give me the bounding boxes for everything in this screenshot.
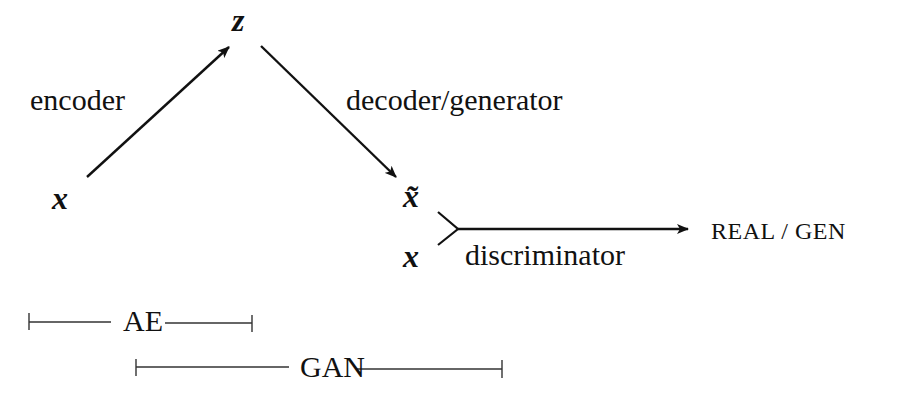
latent-z-label: z [232,4,244,36]
real-x-label: x [403,240,419,272]
decoder-generator-label: decoder/generator [346,85,563,115]
input-x-label: x [52,182,68,214]
output-real-gen-label: REAL / GEN [711,219,846,243]
discriminator-label: discriminator [465,240,625,270]
gan-span-label: GAN [300,352,365,382]
reconstruction-x-tilde-label: x̃ [403,180,419,212]
merge-bracket [438,212,458,245]
diagram-canvas [0,0,914,414]
ae-span-label: AE [123,306,163,336]
encoder-label: encoder [30,85,125,115]
